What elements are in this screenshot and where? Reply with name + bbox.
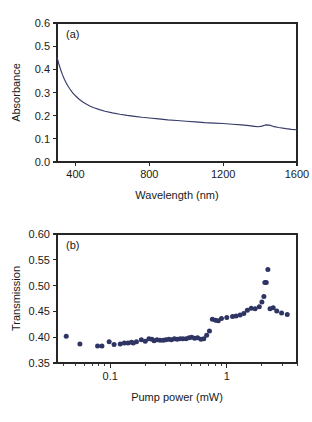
data-point	[265, 267, 270, 272]
y-tick-label: 0.40	[29, 331, 50, 343]
x-tick-label: 400	[66, 168, 84, 180]
x-tick-label: 0.1	[103, 370, 118, 382]
y-tick-label: 0.3	[35, 87, 50, 99]
absorbance-plot: 0.00.10.20.30.40.50.640080012001600Wavel…	[0, 0, 312, 212]
figure-container: 0.00.10.20.30.40.50.640080012001600Wavel…	[0, 0, 312, 422]
y-tick-label: 0.50	[29, 280, 50, 292]
y-tick-label: 0.5	[35, 40, 50, 52]
panel-label: (b)	[66, 239, 79, 251]
data-point	[279, 310, 284, 315]
plot-frame	[57, 23, 297, 162]
data-point	[77, 341, 82, 346]
y-tick-label: 0.2	[35, 110, 50, 122]
data-point	[257, 304, 262, 309]
panel-a-absorbance: 0.00.10.20.30.40.50.640080012001600Wavel…	[0, 0, 312, 212]
data-point	[107, 339, 112, 344]
data-point	[112, 342, 117, 347]
y-tick-label: 0.45	[29, 305, 50, 317]
x-tick-label: 1	[224, 370, 230, 382]
data-point	[207, 329, 212, 334]
data-point	[64, 334, 69, 339]
x-axis-title: Pump power (mW)	[131, 391, 223, 403]
panel-b-transmission: 0.350.400.450.500.550.600.11Pump power (…	[0, 212, 312, 422]
y-tick-label: 0.55	[29, 254, 50, 266]
data-point	[95, 343, 100, 348]
x-tick-label: 1200	[211, 168, 235, 180]
data-point	[219, 316, 224, 321]
x-tick-label: 800	[140, 168, 158, 180]
absorbance-curve	[57, 57, 297, 130]
data-point	[261, 294, 266, 299]
y-tick-label: 0.60	[29, 228, 50, 240]
y-tick-label: 0.0	[35, 156, 50, 168]
panel-label: (a)	[66, 28, 79, 40]
data-point	[259, 300, 264, 305]
y-tick-label: 0.1	[35, 133, 50, 145]
data-point	[274, 308, 279, 313]
data-point	[264, 280, 269, 285]
transmission-plot: 0.350.400.450.500.550.600.11Pump power (…	[0, 212, 312, 422]
y-axis-title: Absorbance	[10, 63, 22, 122]
data-point	[134, 339, 139, 344]
data-point	[204, 333, 209, 338]
data-point	[224, 315, 229, 320]
y-tick-label: 0.6	[35, 17, 50, 29]
plot-frame	[57, 234, 297, 363]
y-tick-label: 0.35	[29, 357, 50, 369]
y-axis-title: Transmission	[10, 266, 22, 331]
x-tick-label: 1600	[285, 168, 309, 180]
data-point	[99, 343, 104, 348]
y-tick-label: 0.4	[35, 63, 50, 75]
data-point	[285, 312, 290, 317]
scatter-series	[64, 267, 290, 348]
x-axis-title: Wavelength (nm)	[135, 189, 218, 201]
